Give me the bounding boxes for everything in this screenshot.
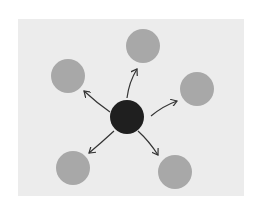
- center-node: [110, 100, 144, 134]
- hub-spoke-diagram: [0, 0, 258, 213]
- node-lower-left: [56, 151, 90, 185]
- node-top: [126, 29, 160, 63]
- node-upper-left: [51, 59, 85, 93]
- node-lower-right: [158, 155, 192, 189]
- node-right: [180, 72, 214, 106]
